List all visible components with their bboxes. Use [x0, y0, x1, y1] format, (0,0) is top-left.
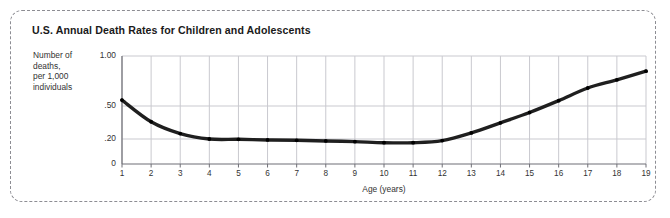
- data-point-marker: [295, 138, 299, 142]
- data-point-marker: [499, 121, 503, 125]
- x-tick-label: 19: [636, 169, 656, 178]
- data-point-marker: [149, 120, 153, 124]
- x-tick-label: 2: [141, 169, 161, 178]
- data-point-marker: [440, 139, 444, 143]
- x-tick-label: 8: [316, 169, 336, 178]
- data-point-marker: [557, 99, 561, 103]
- data-point-marker: [207, 137, 211, 141]
- x-tick-label: 18: [607, 169, 627, 178]
- y-tick-label: .20: [82, 133, 116, 143]
- x-axis-title: Age (years): [324, 184, 444, 194]
- data-point-marker: [382, 141, 386, 145]
- x-tick-label: 9: [345, 169, 365, 178]
- data-point-marker: [324, 139, 328, 143]
- x-tick-label: 11: [403, 169, 423, 178]
- x-tick-label: 7: [287, 169, 307, 178]
- data-point-marker: [615, 78, 619, 82]
- data-point-marker: [644, 69, 648, 73]
- data-point-marker: [469, 131, 473, 135]
- data-point-marker: [353, 140, 357, 144]
- y-tick-label: 0: [82, 158, 116, 168]
- x-tick-label: 12: [432, 169, 452, 178]
- data-point-marker: [120, 98, 124, 102]
- x-tick-label: 3: [170, 169, 190, 178]
- data-point-marker: [237, 137, 241, 141]
- data-point-marker: [266, 138, 270, 142]
- chart-panel: U.S. Annual Death Rates for Children and…: [0, 0, 670, 218]
- x-tick-label: 16: [549, 169, 569, 178]
- x-tick-label: 15: [520, 169, 540, 178]
- x-tick-label: 1: [112, 169, 132, 178]
- x-tick-label: 13: [461, 169, 481, 178]
- y-tick-label: .50: [82, 100, 116, 110]
- x-tick-label: 14: [490, 169, 510, 178]
- plot-area: 0.20.501.00 1234567891011121314151617181…: [0, 0, 670, 218]
- x-tick-label: 4: [199, 169, 219, 178]
- x-tick-label: 10: [374, 169, 394, 178]
- x-tick-label: 17: [578, 169, 598, 178]
- grid-layer: [122, 56, 646, 164]
- data-point-marker: [528, 111, 532, 115]
- data-point-marker: [178, 132, 182, 136]
- x-tick-label: 5: [228, 169, 248, 178]
- y-tick-label: 1.00: [82, 50, 116, 60]
- x-tick-label: 6: [258, 169, 278, 178]
- data-point-marker: [586, 86, 590, 90]
- data-point-marker: [411, 141, 415, 145]
